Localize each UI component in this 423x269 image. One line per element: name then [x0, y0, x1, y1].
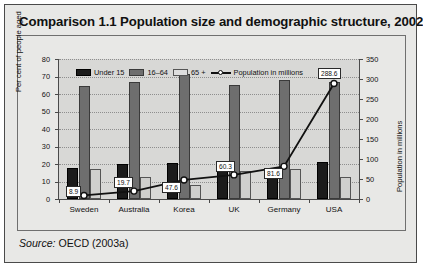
legend-item-65-plus: 65 + [173, 68, 206, 77]
legend-label-under-15: Under 15 [94, 68, 124, 77]
line-data-point [331, 81, 337, 87]
y-tick-label: 30 [28, 142, 50, 151]
legend-item-under-15: Under 15 [76, 68, 124, 77]
figure-panel: Comparison 1.1 Population size and demog… [4, 4, 417, 263]
figure-title: Comparison 1.1 Population size and demog… [19, 14, 409, 29]
y2-tick-mark [359, 79, 363, 80]
x-tick-mark [159, 199, 160, 203]
y2-tick-mark [359, 59, 363, 60]
y-tick-label: 10 [28, 177, 50, 186]
y-tick-label: 40 [28, 125, 50, 134]
x-axis-label: UK [209, 205, 259, 214]
y2-tick-label: 250 [366, 95, 390, 104]
data-label: 288.6 [318, 68, 341, 79]
y2-tick-mark [359, 179, 363, 180]
line-data-point [231, 172, 237, 178]
source-note: Source: OECD (2003a) [19, 237, 129, 249]
legend-item-16-64: 16–64 [129, 68, 168, 77]
chart-frame: Per cent of people aged Population in mi… [17, 35, 406, 231]
x-axis-label: USA [309, 205, 359, 214]
legend-label-population: Population in millions [234, 68, 303, 77]
source-prefix: Source: [19, 237, 56, 249]
y2-tick-label: 200 [366, 115, 390, 124]
legend-swatch-16-64 [129, 69, 144, 76]
y2-tick-mark [359, 119, 363, 120]
x-tick-mark [59, 199, 60, 203]
y-tick-label: 20 [28, 160, 50, 169]
y-tick-label: 0 [28, 195, 50, 204]
y-tick-label: 70 [28, 72, 50, 81]
data-label: 81.6 [264, 168, 283, 179]
data-label: 47.6 [162, 182, 181, 193]
line-data-point [81, 192, 87, 198]
x-tick-mark [109, 199, 110, 203]
y-axis-left-title: Per cent of people aged [14, 11, 23, 92]
y-axis-right-title: Population in millions [395, 121, 404, 192]
data-label: 19.7 [114, 177, 133, 188]
y-tick-label: 50 [28, 107, 50, 116]
line-data-point [131, 188, 137, 194]
y2-tick-label: 300 [366, 75, 390, 84]
x-tick-mark [209, 199, 210, 203]
legend-item-population: Population in millions [211, 68, 303, 77]
data-label: 8.9 [66, 186, 81, 197]
x-axis-label: Australia [109, 205, 159, 214]
data-label: 60.3 [216, 161, 235, 172]
legend-swatch-65-plus [173, 69, 188, 76]
y2-tick-mark [359, 159, 363, 160]
y2-tick-mark [359, 139, 363, 140]
y-tick-label: 60 [28, 90, 50, 99]
y2-tick-mark [359, 99, 363, 100]
chart-legend: Under 15 16–64 65 + Population in millio… [76, 68, 303, 77]
x-tick-mark [359, 199, 360, 203]
y2-tick-label: 50 [366, 175, 390, 184]
y2-tick-label: 150 [366, 135, 390, 144]
y2-tick-label: 0 [366, 195, 390, 204]
legend-label-65-plus: 65 + [191, 68, 206, 77]
x-tick-mark [309, 199, 310, 203]
population-line-series [59, 59, 359, 199]
legend-swatch-under-15 [76, 69, 91, 76]
x-axis-label: Germany [259, 205, 309, 214]
legend-line-marker-icon [211, 69, 231, 76]
line-data-point [181, 177, 187, 183]
y2-tick-label: 100 [366, 155, 390, 164]
x-axis-label: Sweden [59, 205, 109, 214]
y2-tick-label: 350 [366, 55, 390, 64]
legend-label-16-64: 16–64 [147, 68, 168, 77]
source-text: OECD (2003a) [56, 237, 129, 249]
y-tick-label: 80 [28, 55, 50, 64]
x-tick-mark [259, 199, 260, 203]
x-axis-label: Korea [159, 205, 209, 214]
